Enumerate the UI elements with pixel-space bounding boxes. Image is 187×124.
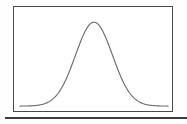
plot-frame <box>13 6 173 112</box>
figure-caption <box>5 120 187 124</box>
normal-distribution-curve <box>20 22 168 106</box>
bell-curve-chart <box>14 7 172 111</box>
figure-root <box>0 0 187 124</box>
bottom-horizontal-rule <box>5 117 187 119</box>
